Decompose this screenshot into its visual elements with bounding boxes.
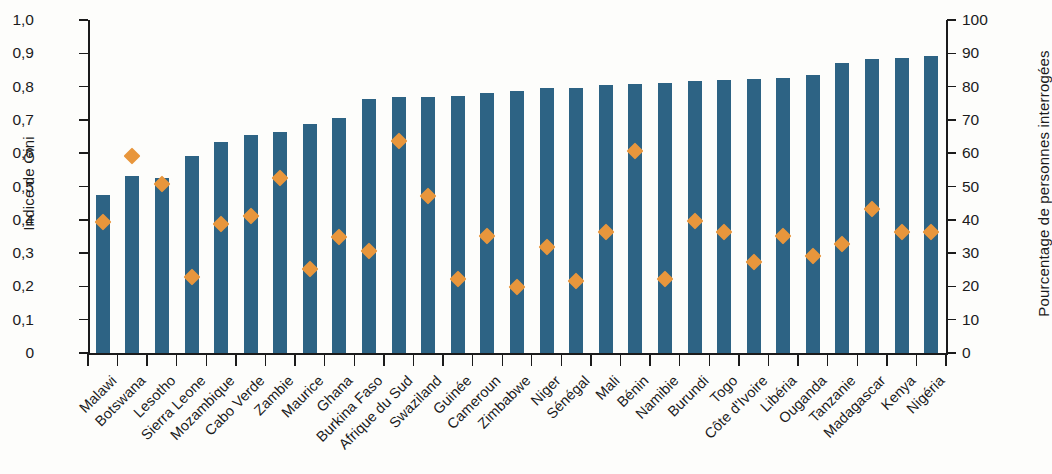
x-axis-category-label: Zambie	[144, 372, 297, 474]
x-axis-category-label: Libéria	[647, 372, 800, 474]
x-axis-tick	[265, 354, 266, 366]
y-axis-right-tick	[947, 286, 956, 288]
x-axis-tick	[294, 354, 295, 366]
y-axis-right-tick	[947, 352, 956, 354]
bar[interactable]	[214, 142, 228, 353]
bar[interactable]	[273, 132, 287, 353]
y-axis-left-tick-label: 0,8	[0, 79, 34, 95]
x-axis-tick	[383, 354, 384, 366]
bar[interactable]	[776, 78, 790, 353]
bar[interactable]	[185, 156, 199, 353]
x-axis-tick	[146, 354, 147, 366]
bar[interactable]	[599, 85, 613, 353]
y-axis-left-tick	[79, 286, 88, 288]
x-axis-tick	[709, 354, 710, 366]
x-axis-category-label: Lesotho	[26, 372, 179, 474]
x-axis-category-label: Mali	[470, 372, 623, 474]
bar[interactable]	[244, 135, 258, 353]
data-point-marker[interactable]	[124, 147, 141, 164]
x-axis-tick	[945, 354, 946, 366]
x-axis-category-label: Côte d'Ivoire	[618, 372, 771, 474]
y-axis-right-tick-label: 10	[962, 312, 1012, 328]
bar[interactable]	[717, 80, 731, 353]
bar[interactable]	[628, 84, 642, 353]
x-axis-tick	[87, 354, 88, 366]
bar[interactable]	[451, 96, 465, 353]
bar[interactable]	[421, 97, 435, 353]
x-axis-tick	[886, 354, 887, 366]
y-axis-left-tick-label: 1,0	[0, 12, 34, 28]
x-axis-category-label: Nigéria	[795, 372, 948, 474]
y-axis-right-tick	[947, 252, 956, 254]
y-axis-left-tick-label: 0,4	[0, 212, 34, 228]
x-axis-tick	[354, 354, 355, 366]
y-axis-right-tick	[947, 53, 956, 55]
x-axis-category-label: Swaziland	[292, 372, 445, 474]
bar[interactable]	[895, 58, 909, 353]
y-axis-right-tick-label: 30	[962, 245, 1012, 261]
x-axis-tick	[797, 354, 798, 366]
x-axis-tick	[768, 354, 769, 366]
x-axis-tick	[561, 354, 562, 366]
x-axis-category-label: Burkina Faso	[233, 372, 386, 474]
y-axis-left-tick	[79, 119, 88, 121]
y-axis-right-tick	[947, 19, 956, 21]
x-axis-tick	[827, 354, 828, 366]
x-axis-category-label: Afrique du Sud	[263, 372, 416, 474]
bar[interactable]	[747, 79, 761, 353]
bar[interactable]	[125, 176, 139, 353]
bar[interactable]	[303, 124, 317, 353]
y-axis-left-tick-label: 0,9	[0, 45, 34, 61]
x-axis-tick	[531, 354, 532, 366]
y-axis-left-tick-label: 0	[0, 345, 34, 361]
x-axis-category-label: Niger	[410, 372, 563, 474]
bar[interactable]	[540, 88, 554, 353]
y-axis-left-tick-label: 0,5	[0, 179, 34, 195]
y-axis-left-tick	[79, 186, 88, 188]
bar[interactable]	[806, 75, 820, 353]
y-axis-right-tick	[947, 119, 956, 121]
x-axis-category-label: Ouganda	[677, 372, 830, 474]
y-axis-left-tick	[79, 252, 88, 254]
x-axis-tick	[442, 354, 443, 366]
x-axis-category-label: Cameroun	[351, 372, 504, 474]
bar[interactable]	[924, 56, 938, 353]
y-axis-right-tick-label: 70	[962, 112, 1012, 128]
x-axis-tick	[620, 354, 621, 366]
bar[interactable]	[569, 88, 583, 353]
x-axis-tick	[206, 354, 207, 366]
y-axis-right-tick-label: 90	[962, 45, 1012, 61]
y-axis-left-tick	[79, 19, 88, 21]
bar[interactable]	[510, 91, 524, 353]
y-axis-right-tick	[947, 319, 956, 321]
x-axis-category-label: Namibie	[529, 372, 682, 474]
bar[interactable]	[480, 93, 494, 353]
x-axis-tick	[324, 354, 325, 366]
bar[interactable]	[835, 63, 849, 353]
x-axis-category-label: Maurice	[174, 372, 327, 474]
x-axis-category-label: Botswana	[0, 372, 149, 474]
x-axis-tick	[235, 354, 236, 366]
x-axis-tick	[916, 354, 917, 366]
x-axis-tick	[738, 354, 739, 366]
x-axis-tick	[857, 354, 858, 366]
bar[interactable]	[658, 83, 672, 353]
y-axis-right-tick-label: 50	[962, 179, 1012, 195]
x-axis-category-label: Zimbabwe	[381, 372, 534, 474]
x-axis-category-label: Madagascar	[736, 372, 889, 474]
y-axis-left-tick-label: 0,1	[0, 312, 34, 328]
x-axis-category-label: Sénégal	[440, 372, 593, 474]
plot-area	[88, 20, 946, 353]
y-axis-left-tick-label: 0,3	[0, 245, 34, 261]
y-axis-left-tick	[79, 319, 88, 321]
x-axis-category-label: Kenya	[766, 372, 919, 474]
y-axis-right-tick-label: 100	[962, 12, 1012, 28]
x-axis-tick	[117, 354, 118, 366]
y-axis-right-tick-label: 20	[962, 278, 1012, 294]
bar[interactable]	[155, 178, 169, 353]
x-axis-tick	[502, 354, 503, 366]
y-axis-right-tick	[947, 186, 956, 188]
y-axis-right-tick-label: 60	[962, 145, 1012, 161]
bar[interactable]	[362, 99, 376, 353]
x-axis-category-label: Burundi	[558, 372, 711, 474]
